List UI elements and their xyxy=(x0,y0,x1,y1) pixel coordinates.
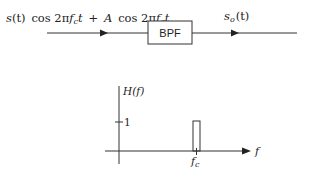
block-diagram: s(t) cos 2πfct + A cos 2πfct BPF so(t) xyxy=(6,9,297,44)
passband-pulse xyxy=(193,121,200,151)
bpf-label: BPF xyxy=(159,27,181,39)
tick-one-label: 1 xyxy=(124,116,131,128)
bandpass-filter-diagram: s(t) cos 2πfct + A cos 2πfct BPF so(t) H… xyxy=(0,0,314,181)
frequency-response-plot: H(f) f 1 fc xyxy=(105,85,261,169)
output-signal-label: so(t) xyxy=(224,9,249,24)
input-signal-label: s(t) cos 2πfct + A cos 2πfct xyxy=(6,11,170,26)
fc-label: fc xyxy=(190,155,200,169)
x-axis-arrow-icon xyxy=(242,148,251,155)
output-arrow-icon xyxy=(231,30,239,37)
y-axis-label: H(f) xyxy=(122,85,144,97)
x-axis-label: f xyxy=(254,145,261,158)
input-arrow-icon xyxy=(100,30,108,37)
